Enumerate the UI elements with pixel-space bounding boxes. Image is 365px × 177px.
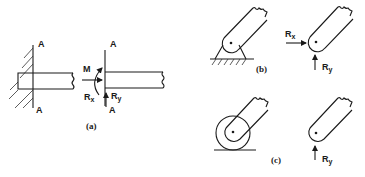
section-label-bottom-left: A xyxy=(36,105,43,115)
pin-dot-icon xyxy=(315,41,318,44)
break-line-icon xyxy=(338,98,352,107)
break-line-icon xyxy=(338,7,352,16)
break-line-icon xyxy=(72,73,74,89)
break-line-icon xyxy=(253,8,267,17)
pin-support xyxy=(210,45,254,65)
fixed-wall xyxy=(9,45,33,108)
pin-dot-icon xyxy=(230,42,233,45)
pin-dot-icon xyxy=(232,131,235,134)
ground-hatching xyxy=(212,59,246,65)
left-beam xyxy=(18,73,74,89)
moment-arrow-icon xyxy=(95,68,102,95)
member-pinned xyxy=(222,8,267,53)
ry-label: Ry xyxy=(111,91,122,103)
section-label-top-right: A xyxy=(110,39,117,49)
member-free-body-b xyxy=(308,7,353,52)
moment-label: M xyxy=(83,64,91,74)
panel-b: Rx Ry (b) xyxy=(210,7,353,74)
ry-label: Ry xyxy=(322,62,333,74)
pin-dot-icon xyxy=(315,132,318,135)
ry-label: Ry xyxy=(322,154,333,166)
caption-c: (c) xyxy=(271,155,281,165)
caption-a: (a) xyxy=(86,121,97,131)
panel-c: Ry (c) xyxy=(214,98,352,166)
member-roller xyxy=(225,98,268,142)
panel-a: A A A A M Rx Ry (a) xyxy=(9,39,164,131)
rx-label: Rx xyxy=(84,92,95,103)
roller-support xyxy=(214,116,256,150)
support-reactions-figure: A A A A M Rx Ry (a) xyxy=(0,0,365,177)
wall-hatching xyxy=(9,48,33,108)
break-line-icon xyxy=(254,98,268,107)
rx-label: Rx xyxy=(285,29,296,40)
break-line-icon xyxy=(162,72,164,88)
member-free-body-c xyxy=(309,98,352,142)
section-label-top-left: A xyxy=(38,39,45,49)
section-label-bottom-right: A xyxy=(109,105,116,115)
caption-b: (b) xyxy=(256,64,267,74)
